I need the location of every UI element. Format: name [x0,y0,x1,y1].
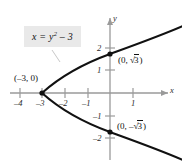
equation-label-lhs: x = y [32,31,54,42]
x-tick-label-pos1: 1 [131,99,135,108]
upper-intercept-label-open: (0, [118,55,130,65]
lower-intercept-marker [107,129,112,134]
lower-intercept-label: (0, –√3) [117,122,146,131]
y-tick-label-neg1: –1 [93,112,102,121]
vertex-point-marker [39,90,44,95]
lower-intercept-label-open: (0, – [117,121,134,131]
y-tick-label-neg2: –2 [93,134,102,143]
upper-intercept-marker [107,51,112,56]
equation-label-rhs: – 3 [57,31,73,42]
equation-leader-line [52,50,60,62]
vertex-point-label: (–3, 0) [14,74,38,83]
equation-label: x = y2 – 3 [24,26,81,47]
y-tick-label-pos2: 2 [97,44,101,53]
y-axis-label: y [113,14,117,23]
x-tick-label-neg1: –1 [82,99,91,108]
x-axis-arrowhead [161,90,168,96]
upper-intercept-label: (0, √3) [118,56,142,65]
upper-intercept-label-close: ) [139,55,142,65]
x-tick-label-neg2: –2 [59,99,68,108]
lower-intercept-label-close: ) [143,121,146,131]
parabola-figure: x = y2 – 3 x y –4 –3 –2 –1 1 2 1 –1 –2 (… [0,0,182,164]
x-axis-label: x [170,86,174,95]
x-tick-label-neg3: –3 [36,99,45,108]
x-tick-label-neg4: –4 [14,99,23,108]
y-tick-label-pos1: 1 [97,66,101,75]
